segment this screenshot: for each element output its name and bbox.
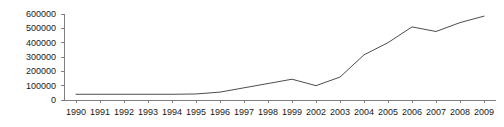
x-axis-tick-label: 2005 xyxy=(378,108,398,117)
x-axis-tick-label: 1997 xyxy=(234,108,254,117)
x-axis-tick-label: 2007 xyxy=(426,108,446,117)
x-axis-tick-label: 2008 xyxy=(450,108,470,117)
x-axis-tick-label: 1999 xyxy=(282,108,302,117)
x-axis-tick-labels: 1990199119921993199419951996199719981999… xyxy=(0,0,504,127)
x-axis-tick-label: 1991 xyxy=(90,108,110,117)
x-axis-tick-label: 1996 xyxy=(210,108,230,117)
x-axis-tick-label: 2002 xyxy=(306,108,326,117)
line-chart: 0100000200000300000400000500000600000 19… xyxy=(0,0,504,127)
x-axis-tick-label: 1994 xyxy=(162,108,182,117)
x-axis-tick-label: 1998 xyxy=(258,108,278,117)
x-axis-tick-label: 1995 xyxy=(186,108,206,117)
x-axis-tick-label: 2009 xyxy=(474,108,494,117)
x-axis-tick-label: 2006 xyxy=(402,108,422,117)
x-axis-tick-label: 1992 xyxy=(114,108,134,117)
x-axis-tick-label: 2004 xyxy=(354,108,374,117)
x-axis-tick-label: 1990 xyxy=(66,108,86,117)
x-axis-tick-label: 1993 xyxy=(138,108,158,117)
x-axis-tick-label: 2003 xyxy=(330,108,350,117)
